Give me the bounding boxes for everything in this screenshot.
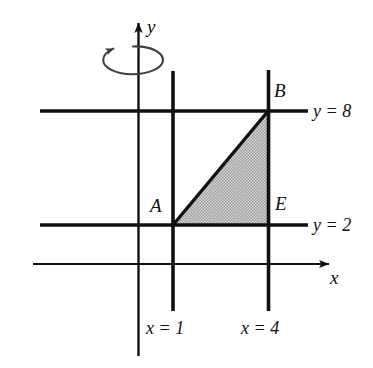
- x-axis-label: x: [330, 268, 338, 287]
- point-label-B: B: [274, 81, 286, 100]
- line-label-y-equals-2: y = 2: [313, 216, 351, 234]
- figure-canvas: A B E y = 8 y = 2 x = 1 x = 4 x y: [0, 0, 373, 368]
- line-label-x-equals-1: x = 1: [146, 319, 184, 337]
- line-label-x-equals-4: x = 4: [241, 319, 279, 337]
- rotation-arrow-icon: [103, 46, 163, 74]
- point-label-E: E: [275, 194, 287, 213]
- line-label-y-equals-8: y = 8: [313, 102, 351, 120]
- graph-svg: [0, 0, 373, 368]
- y-axis-label: y: [147, 17, 155, 36]
- point-label-A: A: [150, 196, 162, 215]
